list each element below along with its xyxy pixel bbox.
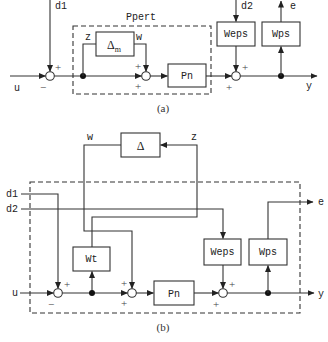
sign-plus: +: [135, 60, 141, 72]
e-output-arrow: [268, 202, 313, 239]
block-diagram-figure: Ppert d1 u + − z Δm w + + Pn d: [0, 0, 328, 342]
summing-junction-1: [54, 289, 63, 298]
sign-plus: +: [242, 61, 248, 73]
z-line: [92, 145, 197, 247]
signal-label-y: y: [306, 81, 312, 92]
sign-minus: −: [40, 81, 46, 93]
sign-plus: +: [226, 81, 232, 93]
signal-label-y: y: [318, 289, 324, 300]
ppert-label: Ppert: [126, 12, 156, 23]
signal-label-z: z: [85, 32, 91, 43]
wps-label: Wps: [272, 29, 290, 40]
sign-plus: +: [121, 297, 127, 309]
summing-junction-3: [232, 72, 241, 81]
signal-label-w: w: [87, 132, 93, 143]
branch-point: [89, 290, 95, 296]
signal-label-e: e: [318, 197, 324, 208]
signal-label-w: w: [136, 32, 142, 43]
pn-label: Pn: [181, 71, 193, 82]
signal-label-e: e: [290, 1, 296, 12]
signal-label-d2: d2: [241, 1, 253, 12]
signal-label-z: z: [191, 132, 197, 143]
sign-plus: +: [135, 80, 141, 92]
sign-plus: +: [121, 277, 127, 289]
signal-label-d2: d2: [6, 204, 18, 215]
summing-junction-2: [142, 72, 151, 81]
summing-junction-2: [128, 289, 137, 298]
z-line: [83, 44, 96, 76]
signal-label-u: u: [12, 288, 18, 299]
signal-label-u: u: [14, 83, 20, 94]
sign-plus: +: [55, 61, 61, 73]
caption-b: (b): [157, 321, 170, 334]
sign-plus: +: [213, 298, 219, 310]
pn-label: Pn: [168, 289, 180, 300]
summing-junction-3: [219, 289, 228, 298]
d2-line: [21, 209, 223, 239]
signal-label-d1: d1: [6, 189, 18, 200]
caption-a: (a): [157, 102, 170, 115]
wt-label: Wt: [85, 254, 97, 265]
weps-label: Weps: [210, 247, 234, 258]
d1-line: [21, 194, 58, 289]
sign-minus: −: [48, 298, 54, 310]
delta-label: Δ: [137, 139, 145, 153]
signal-label-d1: d1: [55, 1, 67, 12]
sign-plus: +: [64, 278, 70, 290]
panel-a: Ppert d1 u + − z Δm w + + Pn d: [10, 0, 317, 115]
summing-junction-1: [46, 72, 55, 81]
sign-plus: +: [229, 278, 235, 290]
panel-b: Δ w z d1 d2 Wt u + − + +: [6, 132, 324, 334]
weps-label: Weps: [224, 29, 248, 40]
wps-label: Wps: [259, 247, 277, 258]
